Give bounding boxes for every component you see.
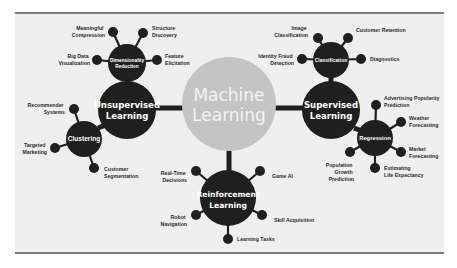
unsupervised-label-line2: Learning	[106, 111, 149, 121]
regression-label: Regression	[359, 135, 391, 141]
reinforcement-label-line2: Learning	[209, 201, 247, 210]
dimred-label-line2: Reduction	[115, 64, 139, 69]
reinforcement-label-line1: Reinforcement	[196, 190, 259, 199]
supervised-label-line2: Learning	[310, 111, 353, 121]
clustering-label: Clustering	[68, 135, 101, 143]
leaf-targeted-marketing: Targeted Marketing	[22, 142, 47, 155]
leaf-game-ai: Game AI	[272, 173, 293, 179]
center-label-line1: Machine	[193, 85, 264, 105]
center-label-line2: Learning	[192, 105, 266, 125]
leaf-structure-discovery: Structure Discovery	[152, 25, 177, 38]
unsupervised-label-line1: Unsupervised	[94, 100, 160, 110]
leaf-real-time-decisions: Real-Time Decisions	[161, 170, 187, 183]
node-dimensionality-reduction	[108, 44, 146, 82]
leaf-customer-retention: Customer Retention	[356, 27, 406, 33]
supervised-label-line1: Supervised	[304, 100, 358, 110]
leaf-skill-acquisition: Skill Acquisition	[274, 217, 314, 223]
ml-diagram: Machine Learning Unsupervised Learning S…	[0, 0, 457, 268]
node-supervised-learning	[302, 81, 360, 139]
node-unsupervised-learning	[98, 81, 156, 139]
classification-label: Classification	[315, 57, 348, 63]
leaf-meaningful-compression: Meaningful Compression	[72, 25, 105, 38]
leaf-learning-tasks: Learning Tasks	[237, 236, 275, 242]
leaf-diagnostics: Diagnostics	[370, 56, 400, 62]
dimred-label-line1: Dimensionality	[110, 58, 144, 63]
